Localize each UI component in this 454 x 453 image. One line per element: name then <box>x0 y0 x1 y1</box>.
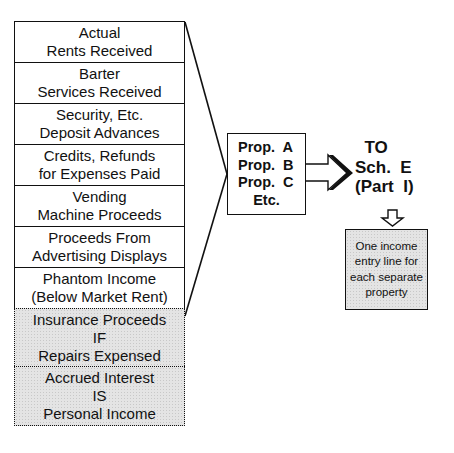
income-sources-column: Actual Rents Received Barter Services Re… <box>14 22 185 426</box>
note-text: property <box>346 285 427 301</box>
item-text: Insurance Proceeds <box>15 311 184 329</box>
income-item-phantom-income: Phantom Income (Below Market Rent) <box>14 267 185 309</box>
schedule-e-destination: TO Sch. E (Part I) <box>355 138 435 197</box>
big-right-arrow-icon <box>306 155 353 190</box>
income-item-barter: Barter Services Received <box>14 62 185 104</box>
income-item-credits-refunds: Credits, Refunds for Expenses Paid <box>14 144 185 186</box>
income-item-advertising: Proceeds From Advertising Displays <box>14 226 185 268</box>
item-text: Services Received <box>15 83 184 101</box>
item-text: Proceeds From <box>15 229 184 247</box>
note-text: each separate <box>346 270 427 286</box>
income-item-security-deposits: Security, Etc. Deposit Advances <box>14 103 185 145</box>
item-text: Machine Proceeds <box>15 206 184 224</box>
item-text: Rents Received <box>15 42 184 60</box>
item-text: IF <box>15 329 184 347</box>
item-text: Deposit Advances <box>15 124 184 142</box>
property-a: Prop. A <box>228 139 305 157</box>
property-etc: Etc. <box>228 192 305 210</box>
item-text: Vending <box>15 188 184 206</box>
note-text: One income <box>346 239 427 255</box>
item-text: Barter <box>15 65 184 83</box>
item-text: Advertising Displays <box>15 247 184 265</box>
destination-schedule: Sch. E <box>355 158 435 178</box>
item-text: Security, Etc. <box>15 106 184 124</box>
destination-to: TO <box>355 138 435 158</box>
income-item-actual-rents: Actual Rents Received <box>14 21 185 63</box>
entry-line-note: One income entry line for each separate … <box>345 229 428 310</box>
funnel-line-top <box>185 22 227 174</box>
item-text: Personal Income <box>15 405 184 423</box>
income-item-insurance-proceeds: Insurance Proceeds IF Repairs Expensed <box>14 308 185 368</box>
item-text: Credits, Refunds <box>15 147 184 165</box>
item-text: IS <box>15 387 184 405</box>
funnel-line-bottom <box>185 174 227 316</box>
item-text: Accrued Interest <box>15 369 184 387</box>
item-text: (Below Market Rent) <box>15 288 184 306</box>
property-b: Prop. B <box>228 157 305 175</box>
income-item-vending: Vending Machine Proceeds <box>14 185 185 227</box>
destination-part: (Part I) <box>355 177 435 197</box>
income-item-accrued-interest: Accrued Interest IS Personal Income <box>14 366 185 426</box>
property-c: Prop. C <box>228 174 305 192</box>
properties-box: Prop. A Prop. B Prop. C Etc. <box>227 133 306 215</box>
item-text: Repairs Expensed <box>15 347 184 365</box>
item-text: for Expenses Paid <box>15 165 184 183</box>
note-text: entry line for <box>346 254 427 270</box>
item-text: Phantom Income <box>15 270 184 288</box>
item-text: Actual <box>15 24 184 42</box>
down-arrow-icon <box>382 210 403 226</box>
